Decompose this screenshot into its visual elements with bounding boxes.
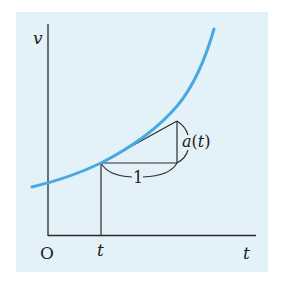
t-tick-label: t (97, 242, 104, 259)
y-axis-label: v (33, 30, 43, 47)
rise-label: a(t) (182, 134, 210, 150)
run-brace-right (143, 163, 177, 177)
rise-brace-bottom (177, 150, 188, 163)
rise-label-close: ) (204, 132, 210, 151)
rise-label-fn: a (182, 132, 192, 151)
run-brace (101, 163, 132, 177)
origin-label: O (40, 245, 54, 262)
run-label: 1 (133, 170, 143, 186)
x-axis-label: t (243, 245, 250, 262)
